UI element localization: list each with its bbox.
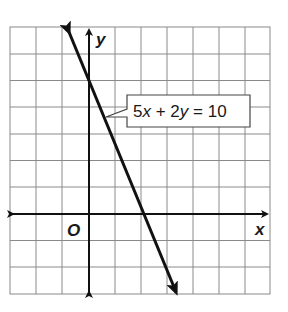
grid xyxy=(10,27,270,294)
coordinate-graph: y x O 5x + 2y = 10 xyxy=(0,0,288,312)
origin-label: O xyxy=(67,221,80,240)
y-axis-label: y xyxy=(95,30,107,49)
equation-callout: 5x + 2y = 10 xyxy=(106,95,250,127)
plotted-line xyxy=(69,32,176,292)
equation-label: 5x + 2y = 10 xyxy=(133,102,227,121)
x-axis-label: x xyxy=(254,220,266,239)
